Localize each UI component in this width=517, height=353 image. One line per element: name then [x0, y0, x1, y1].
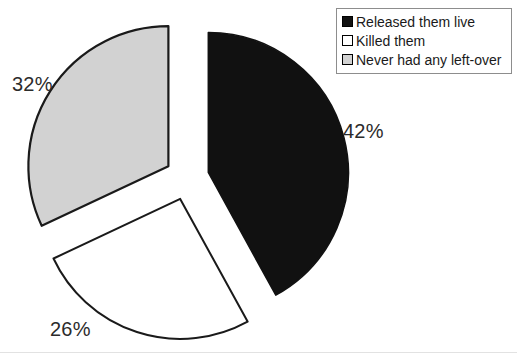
pie-slice-never-had-any-left-over[interactable]	[28, 26, 168, 226]
legend-swatch-icon-never-had-any-left-over	[342, 54, 353, 65]
legend-label-released-them-live: Released them live	[356, 14, 475, 30]
pie-value-label-never-had-any-left-over: 32%	[12, 73, 53, 96]
pie-slice-released-them-live[interactable]	[208, 32, 348, 295]
pie-value-label-killed-them: 26%	[50, 318, 91, 341]
legend-label-killed-them: Killed them	[356, 33, 425, 49]
legend-swatch-icon-released-them-live	[342, 16, 353, 27]
legend-swatch-icon-killed-them	[342, 35, 353, 46]
chart-legend: Released them live Killed them Never had…	[336, 8, 512, 74]
legend-item-never-had-any-left-over[interactable]: Never had any left-over	[342, 50, 507, 69]
legend-item-killed-them[interactable]: Killed them	[342, 31, 507, 50]
legend-label-never-had-any-left-over: Never had any left-over	[356, 52, 502, 68]
pie-value-label-released-them-live: 42%	[343, 120, 384, 143]
legend-item-released-them-live[interactable]: Released them live	[342, 12, 507, 31]
pie-chart-figure: 32% 42% 26% Released them live Killed th…	[0, 0, 517, 353]
